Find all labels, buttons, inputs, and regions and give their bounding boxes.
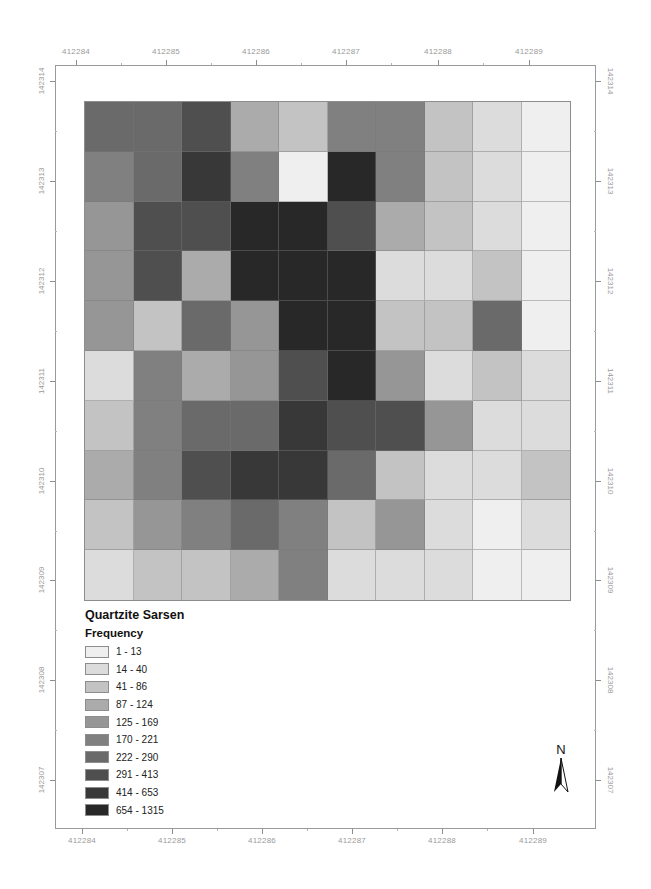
grid-cell (328, 451, 377, 501)
y-tick-mark (596, 481, 601, 482)
grid-cell (522, 152, 571, 202)
grid-cell (85, 500, 134, 550)
legend-title: Quartzite Sarsen (85, 608, 184, 622)
y-tick-mark (50, 580, 55, 581)
grid-cell (376, 500, 425, 550)
grid-cell (279, 251, 328, 301)
grid-cell (85, 152, 134, 202)
north-label: N (549, 742, 573, 757)
grid-cell (182, 550, 231, 600)
y-tick-label-left: 142307 (37, 767, 46, 794)
grid-cell (85, 550, 134, 600)
x-tick-mark (346, 60, 347, 65)
grid-cell (328, 401, 377, 451)
legend-label: 87 - 124 (116, 699, 153, 710)
grid-cell (522, 451, 571, 501)
legend-subtitle: Frequency (85, 627, 184, 639)
x-tick-label-top: 412286 (242, 47, 270, 56)
y-minor-tick (55, 531, 57, 532)
x-tick-mark (76, 60, 77, 65)
legend-entry: 170 - 221 (85, 731, 184, 749)
legend-entry: 222 - 290 (85, 749, 184, 767)
legend-entry: 125 - 169 (85, 713, 184, 731)
y-tick-mark (50, 381, 55, 382)
grid-cell (231, 202, 280, 252)
grid-cell (425, 401, 474, 451)
grid-cell (231, 152, 280, 202)
legend-entry: 1 - 13 (85, 643, 184, 661)
legend-label: 414 - 653 (116, 787, 158, 798)
x-tick-label-top: 412285 (152, 47, 180, 56)
y-minor-tick (594, 131, 596, 132)
y-tick-label-right: 142308 (606, 667, 615, 694)
x-tick-label-bottom: 412287 (338, 836, 366, 845)
grid-cell (134, 202, 183, 252)
legend: Quartzite Sarsen Frequency 1 - 1314 - 40… (85, 608, 184, 819)
grid-cell (279, 401, 328, 451)
y-tick-label-right: 142314 (606, 68, 615, 95)
x-minor-tick (127, 829, 128, 831)
y-minor-tick (55, 231, 57, 232)
x-tick-label-bottom: 412284 (68, 836, 96, 845)
north-arrow-icon (549, 756, 573, 796)
legend-swatch (85, 787, 109, 799)
grid-cell (134, 401, 183, 451)
y-tick-label-left: 142313 (37, 168, 46, 195)
grid-cell (85, 202, 134, 252)
grid-cell (231, 102, 280, 152)
grid-cell (376, 202, 425, 252)
y-tick-label-right: 142309 (606, 567, 615, 594)
grid-cell (231, 500, 280, 550)
x-minor-tick (301, 63, 302, 65)
x-tick-label-bottom: 412285 (158, 836, 186, 845)
legend-label: 1 - 13 (116, 646, 142, 657)
grid-cell (522, 102, 571, 152)
grid-cell (279, 500, 328, 550)
y-minor-tick (55, 431, 57, 432)
grid-cell (425, 102, 474, 152)
legend-label: 125 - 169 (116, 717, 158, 728)
y-minor-tick (55, 730, 57, 731)
grid-cell (473, 301, 522, 351)
grid-cell (279, 202, 328, 252)
legend-swatch (85, 716, 109, 728)
y-minor-tick (594, 630, 596, 631)
north-arrow: N (549, 742, 573, 794)
grid-cell (328, 202, 377, 252)
y-tick-mark (596, 780, 601, 781)
y-tick-mark (50, 481, 55, 482)
y-tick-label-right: 142313 (606, 168, 615, 195)
grid-cell (376, 251, 425, 301)
grid-cell (473, 102, 522, 152)
grid-cell (134, 351, 183, 401)
grid-cell (473, 202, 522, 252)
grid-cell (182, 152, 231, 202)
x-minor-tick (397, 829, 398, 831)
grid-cell (134, 251, 183, 301)
legend-entry: 654 - 1315 (85, 801, 184, 819)
y-tick-mark (596, 381, 601, 382)
legend-swatch (85, 804, 109, 816)
y-minor-tick (594, 331, 596, 332)
x-minor-tick (217, 829, 218, 831)
legend-label: 41 - 86 (116, 681, 147, 692)
grid-cell (376, 102, 425, 152)
x-minor-tick (211, 63, 212, 65)
x-tick-mark (438, 60, 439, 65)
grid-cell (425, 500, 474, 550)
x-tick-mark (533, 829, 534, 834)
grid-cell (231, 251, 280, 301)
grid-cell (182, 500, 231, 550)
grid-cell (134, 451, 183, 501)
y-tick-label-right: 142310 (606, 468, 615, 495)
legend-label: 654 - 1315 (116, 805, 164, 816)
y-tick-label-left: 142310 (37, 468, 46, 495)
grid-cell (522, 301, 571, 351)
grid-cell (279, 152, 328, 202)
grid-cell (134, 500, 183, 550)
grid-cell (376, 451, 425, 501)
grid-cell (182, 202, 231, 252)
grid-cell (134, 102, 183, 152)
x-minor-tick (121, 63, 122, 65)
grid-cell (473, 351, 522, 401)
